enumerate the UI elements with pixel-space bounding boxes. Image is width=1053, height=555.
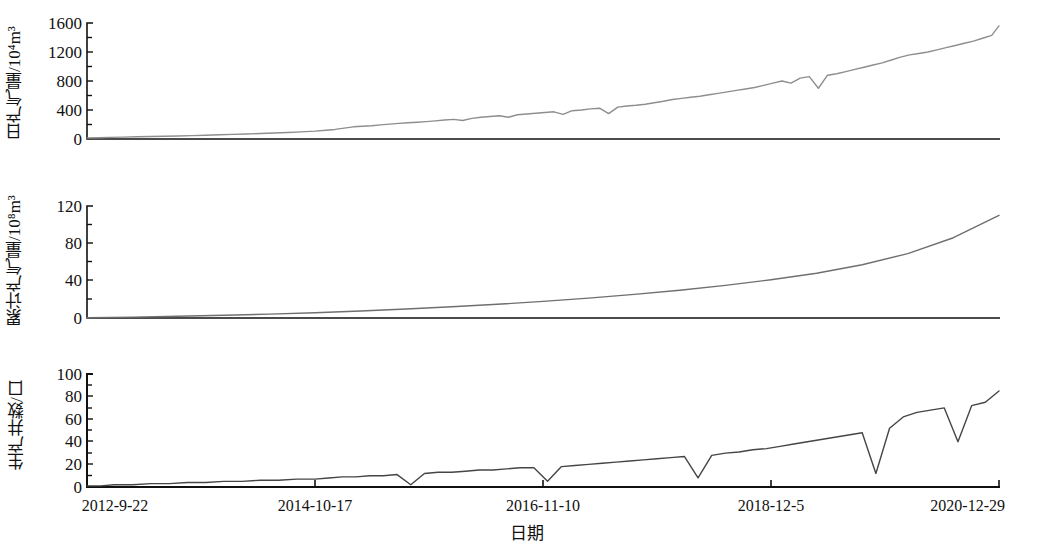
- panel-cumulative-gas-production: 累计产气量/10⁸m³ 120 80 40 0: [0, 180, 1053, 355]
- triple-panel-production-chart: 日产气量/10⁴m³ 1600 1200 800 400 0 累计产气量/10⁸…: [0, 0, 1053, 555]
- y-tick-label: 1200: [22, 44, 82, 61]
- x-tick-label: 2014-10-17: [278, 497, 353, 515]
- panel-daily-gas-production: 日产气量/10⁴m³ 1600 1200 800 400 0: [0, 0, 1053, 175]
- x-tick-label: 2012-9-22: [82, 497, 149, 515]
- y-tick-label: 20: [22, 456, 82, 473]
- x-tick-label: 2018-12-5: [738, 497, 805, 515]
- plot-area-daily: [0, 0, 1053, 175]
- y-tick-label: 0: [22, 310, 82, 327]
- panel-producing-well-count: 生产井数/口 100 80 60 40 20 0: [0, 358, 1053, 498]
- series-line-daily-production: [87, 26, 999, 138]
- series-line-cumulative-production: [87, 215, 999, 317]
- y-tick-label: 1600: [22, 15, 82, 32]
- x-tick-label: 2016-11-10: [506, 497, 580, 515]
- y-tick-label: 80: [22, 235, 82, 252]
- plot-area-cumulative: [0, 180, 1053, 355]
- y-tick-label: 100: [22, 366, 82, 383]
- y-tick-label: 400: [22, 102, 82, 119]
- y-tick-label: 0: [22, 131, 82, 148]
- y-tick-label: 40: [22, 433, 82, 450]
- y-tick-label: 40: [22, 272, 82, 289]
- y-tick-label: 120: [22, 198, 82, 215]
- y-tick-label: 80: [22, 388, 82, 405]
- y-tick-label: 60: [22, 411, 82, 428]
- x-axis-title: 日期: [0, 519, 1053, 544]
- x-tick-label: 2020-12-29: [930, 497, 1005, 515]
- y-tick-label: 0: [22, 479, 82, 496]
- y-tick-label: 800: [22, 73, 82, 90]
- series-line-well-count: [87, 391, 999, 486]
- plot-area-wells: [0, 358, 1053, 498]
